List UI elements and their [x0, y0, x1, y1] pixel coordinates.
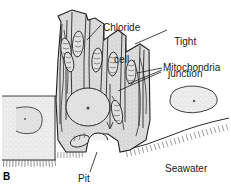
label-chloride-cell-line1: Chloride [103, 23, 140, 34]
leader-pit [90, 152, 97, 172]
label-tight-junction: Tight junction [168, 16, 202, 100]
panel-letter: B [3, 171, 10, 182]
label-mitochondria: Mitochondria [163, 63, 220, 74]
label-seawater: Seawater [165, 164, 207, 175]
figure-panel-b: Chloride cell Tight junction Mitochondri… [0, 0, 231, 186]
nucleus [66, 88, 110, 126]
label-tight-junction-line1: Tight [168, 37, 202, 48]
label-chloride-cell-line2: cell [103, 55, 140, 66]
label-pit: Pit [78, 174, 90, 185]
label-chloride-cell: Chloride cell [103, 2, 140, 86]
cell-base-microvilli [58, 152, 83, 158]
neighbouring-cell-left [2, 96, 56, 167]
